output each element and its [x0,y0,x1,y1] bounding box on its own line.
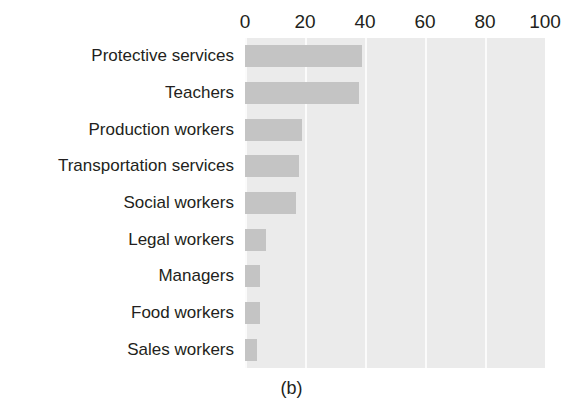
y-tick-label: Social workers [123,193,234,213]
y-axis-category-labels: Protective servicesTeachersProduction wo… [0,38,240,368]
plot-area [245,38,545,368]
y-tick-label: Sales workers [127,340,234,360]
bar [245,229,266,251]
x-tick-label: 100 [529,10,561,34]
bar [245,45,362,67]
x-axis-tick-labels: 020406080100 [245,10,545,34]
y-tick-label: Transportation services [58,156,234,176]
y-tick-label: Protective services [91,46,234,66]
figure-caption: (b) [0,378,583,399]
bar [245,119,302,141]
bar [245,302,260,324]
y-tick-label: Legal workers [128,230,234,250]
x-tick-label: 0 [240,10,251,34]
bar [245,265,260,287]
bar [245,82,359,104]
x-tick-label: 60 [414,10,435,34]
figure-container: 020406080100 Protective servicesTeachers… [0,0,583,412]
gridline [485,38,487,368]
bar [245,192,296,214]
y-tick-label: Managers [158,266,234,286]
y-tick-label: Production workers [88,120,234,140]
gridline [425,38,427,368]
bar [245,339,257,361]
gridline [365,38,367,368]
x-tick-label: 80 [474,10,495,34]
x-tick-label: 40 [354,10,375,34]
y-tick-label: Food workers [131,303,234,323]
x-tick-label: 20 [294,10,315,34]
bar [245,155,299,177]
y-tick-label: Teachers [165,83,234,103]
